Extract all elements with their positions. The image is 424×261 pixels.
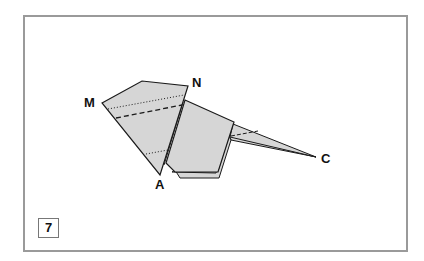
- point-label-a: A: [155, 177, 164, 192]
- point-label-m: M: [84, 95, 95, 110]
- point-label-c: C: [321, 151, 330, 166]
- origami-figure: [0, 0, 424, 261]
- step-number-badge: 7: [38, 218, 59, 238]
- point-label-n: N: [192, 75, 201, 90]
- tail-flap: [230, 124, 316, 157]
